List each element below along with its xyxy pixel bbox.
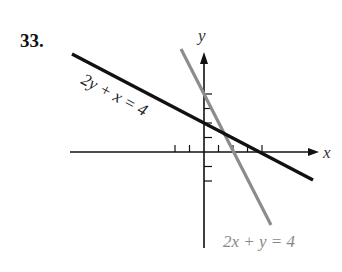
x-axis-label: x bbox=[322, 143, 331, 162]
graph: y x 2y + x = 4 2x + y = 4 bbox=[0, 0, 342, 272]
x-axis-arrow-icon bbox=[308, 148, 319, 156]
y-axis bbox=[200, 52, 212, 248]
y-axis-label: y bbox=[196, 26, 206, 45]
equation-label-gray: 2x + y = 4 bbox=[223, 232, 296, 251]
x-axis bbox=[70, 145, 319, 156]
line-2x-plus-y-eq-4 bbox=[181, 49, 271, 225]
y-axis-arrow-icon bbox=[200, 52, 208, 64]
